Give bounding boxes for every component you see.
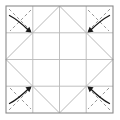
origami-diagram (0, 0, 120, 120)
origami-canvas (0, 0, 120, 120)
